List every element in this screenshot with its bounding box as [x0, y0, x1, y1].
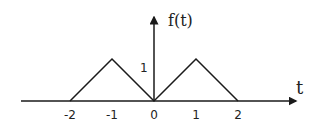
- triangle-pulse-plot: -2-1012 1 f(t) t: [0, 0, 318, 123]
- y-tick-1: 1: [140, 61, 148, 75]
- x-tick-label: -1: [106, 108, 118, 122]
- x-tick-labels: -2-1012: [64, 108, 242, 122]
- x-tick-label: 1: [192, 108, 200, 122]
- x-tick-label: 0: [150, 108, 158, 122]
- x-axis-label: t: [296, 77, 304, 98]
- y-axis-label: f(t): [168, 11, 193, 30]
- x-tick-label: 2: [234, 108, 242, 122]
- x-tick-label: -2: [64, 108, 76, 122]
